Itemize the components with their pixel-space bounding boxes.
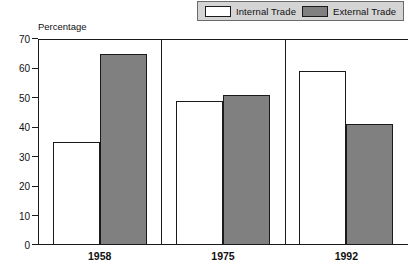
chart-screenshot: Internal Trade External Trade Percentage… bbox=[0, 0, 411, 273]
group-separator-line bbox=[161, 39, 162, 245]
bar-external-trade-1975 bbox=[223, 95, 270, 245]
y-axis-tick-label: 0 bbox=[2, 240, 30, 251]
legend-swatch-external-icon bbox=[302, 6, 328, 17]
y-axis-tick-label: 30 bbox=[2, 151, 30, 162]
y-axis-tick-mark bbox=[32, 68, 38, 69]
y-axis-tick-label: 70 bbox=[2, 34, 30, 45]
y-axis-tick-label: 40 bbox=[2, 122, 30, 133]
y-axis-tick-mark bbox=[32, 38, 38, 39]
y-axis-tick-mark bbox=[32, 127, 38, 128]
x-axis-label-1958: 1958 bbox=[88, 250, 111, 262]
bar-internal-trade-1992 bbox=[299, 71, 346, 245]
chart-legend: Internal Trade External Trade bbox=[197, 1, 404, 21]
legend-item-internal-trade: Internal Trade bbox=[205, 6, 296, 17]
y-axis-tick-mark bbox=[32, 244, 38, 245]
y-axis-tick-mark bbox=[32, 186, 38, 187]
bar-internal-trade-1975 bbox=[176, 101, 223, 245]
y-axis-title: Percentage bbox=[38, 21, 87, 32]
y-axis-tick-mark bbox=[32, 215, 38, 216]
x-axis-label-1975: 1975 bbox=[211, 250, 234, 262]
y-axis-tick-label: 10 bbox=[2, 210, 30, 221]
y-axis-tick-mark bbox=[32, 97, 38, 98]
bar-internal-trade-1958 bbox=[53, 142, 100, 245]
y-axis-tick-label: 50 bbox=[2, 92, 30, 103]
legend-label-external: External Trade bbox=[333, 6, 396, 17]
bar-external-trade-1958 bbox=[100, 54, 147, 245]
legend-label-internal: Internal Trade bbox=[236, 6, 296, 17]
legend-item-external-trade: External Trade bbox=[302, 6, 396, 17]
y-axis-tick-mark bbox=[32, 156, 38, 157]
bar-external-trade-1992 bbox=[346, 124, 393, 245]
y-axis-tick-label: 20 bbox=[2, 181, 30, 192]
group-separator-line bbox=[285, 39, 286, 245]
x-axis-label-1992: 1992 bbox=[335, 250, 358, 262]
y-axis-tick-label: 60 bbox=[2, 63, 30, 74]
legend-swatch-internal-icon bbox=[205, 6, 231, 17]
